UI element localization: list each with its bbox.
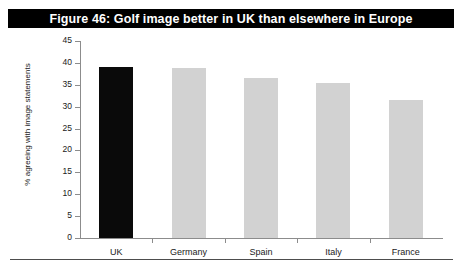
y-tick-label: 10: [52, 189, 72, 198]
bar-germany: [172, 68, 206, 238]
y-tick-label: 15: [52, 167, 72, 176]
bar-chart: % agreeing with image statements 0510152…: [0, 32, 462, 252]
y-tick-label: 5: [52, 211, 72, 220]
y-tick-label: 30: [52, 102, 72, 111]
bar-france: [389, 100, 423, 238]
figure-title-text: Figure 46: Golf image better in UK than …: [50, 12, 413, 26]
y-tick-mark: [75, 238, 80, 239]
y-tick-label: 0: [52, 233, 72, 242]
y-tick-label: 20: [52, 145, 72, 154]
y-tick-label: 45: [52, 36, 72, 45]
x-axis-line: [80, 238, 443, 239]
bar-uk: [99, 67, 133, 238]
x-axis-label-france: France: [370, 248, 442, 257]
y-tick-label: 35: [52, 80, 72, 89]
x-axis-label-germany: Germany: [152, 248, 224, 257]
x-tick-mark: [152, 238, 153, 243]
figure-title-bar: Figure 46: Golf image better in UK than …: [8, 9, 454, 28]
bar-italy: [316, 83, 350, 238]
y-tick-label: 25: [52, 124, 72, 133]
x-tick-mark: [297, 238, 298, 243]
y-tick-label: 40: [52, 58, 72, 67]
x-axis-label-uk: UK: [80, 248, 152, 257]
bars-container: [80, 41, 442, 238]
x-tick-mark: [370, 238, 371, 243]
x-axis-label-italy: Italy: [297, 248, 369, 257]
x-tick-mark: [225, 238, 226, 243]
x-axis-label-spain: Spain: [225, 248, 297, 257]
footer-divider: [10, 259, 453, 260]
y-axis-label: % agreeing with image statements: [23, 60, 32, 190]
bar-spain: [244, 78, 278, 238]
